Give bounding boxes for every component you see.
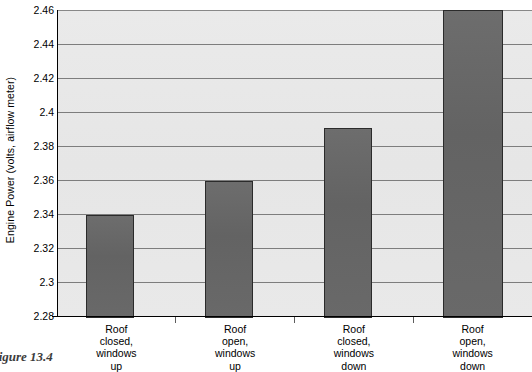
x-category-line: open, [413, 335, 532, 347]
y-tick-label: 2.38 [18, 141, 54, 152]
x-category-line: closed, [295, 335, 414, 347]
y-tick-label: 2.36 [18, 175, 54, 186]
y-tick-label: 2.28 [18, 311, 54, 322]
x-category-line: Roof [57, 323, 176, 335]
x-category-line: down [295, 360, 414, 372]
x-category-line: open, [176, 335, 295, 347]
y-tick-label: 2.46 [18, 5, 54, 16]
x-category-line: up [57, 360, 176, 372]
x-category-line: Roof [413, 323, 532, 335]
y-axis-title: Engine Power (volts, airflow meter) [0, 0, 20, 320]
y-tick-label: 2.4 [18, 107, 54, 118]
x-category-label: Roof closed, windows up [57, 321, 176, 368]
x-category-line: closed, [57, 335, 176, 347]
x-category-line: windows [176, 347, 295, 359]
x-category-label: Roof open, windows up [176, 321, 295, 368]
y-tick-label: 2.3 [18, 277, 54, 288]
x-category-label: Roof open, windows down [413, 321, 532, 368]
y-tick-label: 2.34 [18, 209, 54, 220]
bar-roof-open-windows-up [205, 181, 253, 318]
bar-roof-closed-windows-down [324, 128, 372, 318]
x-category-label: Roof closed, windows down [295, 321, 414, 368]
y-tick-label: 2.32 [18, 243, 54, 254]
y-tick-label: 2.42 [18, 73, 54, 84]
x-category-line: windows [413, 347, 532, 359]
y-axis-title-text: Engine Power (volts, airflow meter) [4, 77, 16, 243]
figure-caption: Figure 13.4 [0, 349, 53, 365]
bar-roof-closed-windows-up [86, 215, 134, 318]
plot-area [57, 10, 532, 317]
x-category-line: down [413, 360, 532, 372]
x-axis-category-labels: Roof closed, windows up Roof open, windo… [57, 321, 532, 368]
x-category-line: up [176, 360, 295, 372]
x-axis-line [52, 316, 532, 317]
x-category-line: Roof [295, 323, 414, 335]
x-category-line: windows [57, 347, 176, 359]
bar-roof-open-windows-down [443, 10, 503, 318]
y-axis-tick-labels: 2.46 2.44 2.42 2.4 2.38 2.36 2.34 2.32 2… [18, 0, 54, 326]
y-tick-label: 2.44 [18, 39, 54, 50]
y-axis-line [57, 10, 58, 317]
x-category-line: windows [295, 347, 414, 359]
x-category-line: Roof [176, 323, 295, 335]
